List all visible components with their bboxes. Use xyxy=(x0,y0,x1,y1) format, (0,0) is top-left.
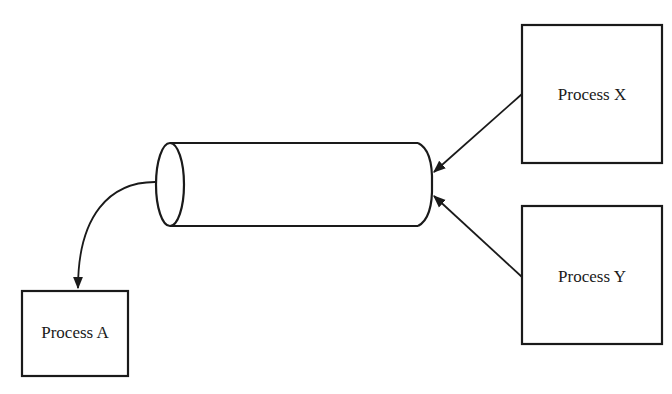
process-y-label: Process Y xyxy=(558,267,626,286)
process-a-box: Process A xyxy=(22,291,128,376)
arrow-pipe-to-process-a xyxy=(78,182,155,288)
process-x-box: Process X xyxy=(522,25,662,163)
process-x-label: Process X xyxy=(558,85,626,104)
arrow-process-x-to-pipe xyxy=(434,94,522,172)
process-y-box: Process Y xyxy=(522,206,662,344)
arrow-process-y-to-pipe xyxy=(434,196,522,277)
pipe-cylinder xyxy=(156,143,432,226)
process-a-label: Process A xyxy=(41,323,109,342)
diagram-canvas: Process A Process X Process Y xyxy=(0,0,672,394)
pipe-left-end xyxy=(156,143,184,226)
